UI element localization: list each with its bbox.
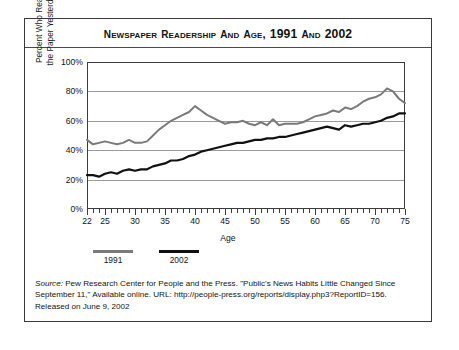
x-tick	[381, 209, 382, 213]
legend-label: 2002	[170, 255, 189, 265]
x-tick	[231, 209, 232, 213]
x-tick	[285, 209, 286, 215]
x-tick	[183, 209, 184, 213]
x-tick	[141, 209, 142, 213]
x-tick-label: 70	[370, 216, 380, 226]
x-tick	[153, 209, 154, 213]
y-axis-title-line1: Percent Who Read	[34, 0, 44, 63]
x-tick	[279, 209, 280, 213]
x-tick	[303, 209, 304, 213]
x-tick	[243, 209, 244, 213]
x-tick	[327, 209, 328, 213]
x-tick	[249, 209, 250, 213]
x-tick	[375, 209, 376, 215]
x-tick-label: 60	[310, 216, 320, 226]
x-tick-label: 25	[100, 216, 110, 226]
figure-frame: NEWSPAPER READERSHIP AND AGE, 1991 AND 2…	[24, 18, 432, 322]
x-tick	[219, 209, 220, 213]
x-tick-label: 45	[220, 216, 230, 226]
x-tick	[315, 209, 316, 215]
plot-region: Percent Who Read the Paper Yesterday 100…	[25, 48, 431, 276]
source-note: Source: Pew Research Center for People a…	[35, 278, 423, 312]
legend-item-1991: 1991	[93, 250, 133, 265]
y-tick-label: 80%	[53, 87, 83, 95]
x-tick	[297, 209, 298, 213]
series-lines	[87, 62, 405, 209]
legend-swatch-1991	[93, 250, 133, 253]
x-tick	[309, 209, 310, 213]
x-tick	[99, 209, 100, 213]
x-tick	[207, 209, 208, 213]
x-axis-title: Age	[25, 233, 431, 243]
x-tick	[189, 209, 190, 213]
x-tick	[237, 209, 238, 213]
x-tick	[105, 209, 106, 215]
source-label: Source:	[35, 279, 63, 288]
x-tick	[171, 209, 172, 213]
x-tick	[195, 209, 196, 215]
legend-swatch-2002	[159, 250, 199, 253]
x-tick	[261, 209, 262, 213]
x-tick	[147, 209, 148, 213]
y-tick-label: 20%	[53, 176, 83, 184]
x-axis-tick-labels: 222530354045505560657075	[87, 216, 405, 228]
x-axis-ticks	[87, 209, 405, 216]
x-tick	[273, 209, 274, 213]
x-tick	[369, 209, 370, 213]
y-tick-label: 40%	[53, 146, 83, 154]
x-tick	[135, 209, 136, 215]
x-tick-label: 75	[400, 216, 410, 226]
x-tick-label: 50	[250, 216, 260, 226]
x-tick-label: 55	[280, 216, 290, 226]
x-tick	[225, 209, 226, 215]
x-tick	[165, 209, 166, 215]
x-tick	[87, 209, 88, 215]
series-line-1991	[87, 88, 405, 144]
x-tick	[363, 209, 364, 213]
x-tick	[351, 209, 352, 213]
x-tick	[267, 209, 268, 213]
x-tick	[255, 209, 256, 215]
x-tick-label: 35	[160, 216, 170, 226]
x-tick	[339, 209, 340, 213]
x-tick	[123, 209, 124, 213]
title-bar: NEWSPAPER READERSHIP AND AGE, 1991 AND 2…	[25, 19, 431, 48]
y-tick-label: 100%	[53, 58, 83, 66]
x-tick	[159, 209, 160, 213]
legend-item-2002: 2002	[159, 250, 199, 265]
x-tick-label: 40	[190, 216, 200, 226]
x-tick	[201, 209, 202, 213]
x-tick-label: 22	[82, 216, 92, 226]
legend-label: 1991	[104, 255, 123, 265]
x-tick	[393, 209, 394, 213]
x-tick	[111, 209, 112, 213]
x-tick	[213, 209, 214, 213]
y-tick-label: 0%	[53, 205, 83, 213]
x-tick	[357, 209, 358, 213]
x-tick	[333, 209, 334, 213]
source-text: Pew Research Center for People and the P…	[35, 279, 395, 311]
page-title: NEWSPAPER READERSHIP AND AGE, 1991 AND 2…	[104, 25, 352, 41]
x-tick	[321, 209, 322, 213]
x-tick	[177, 209, 178, 213]
y-tick-label: 60%	[53, 117, 83, 125]
x-tick	[405, 209, 406, 215]
x-tick	[129, 209, 130, 213]
x-tick	[117, 209, 118, 213]
x-tick	[93, 209, 94, 213]
x-tick	[399, 209, 400, 213]
x-tick	[291, 209, 292, 213]
x-tick-label: 30	[130, 216, 140, 226]
x-tick	[345, 209, 346, 215]
x-tick	[387, 209, 388, 213]
plot-axes	[87, 62, 405, 209]
x-tick-label: 65	[340, 216, 350, 226]
